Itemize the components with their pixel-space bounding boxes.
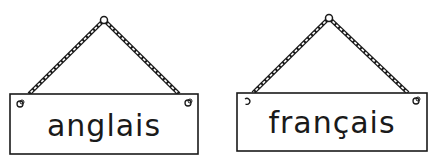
nail-icon	[101, 17, 108, 24]
sign-francais: français	[237, 15, 427, 152]
hanging-cord	[29, 17, 179, 95]
nail-icon	[326, 15, 333, 22]
hanging-cord	[253, 15, 408, 94]
illustration: anglais français	[0, 0, 436, 165]
sign-label: français	[268, 105, 395, 140]
sign-anglais: anglais	[10, 17, 198, 155]
sign-label: anglais	[47, 108, 161, 143]
